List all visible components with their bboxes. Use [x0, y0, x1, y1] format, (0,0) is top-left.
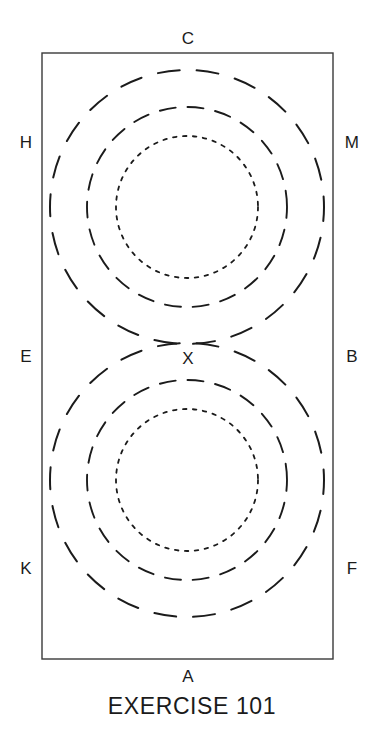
figure-caption: EXERCISE 101: [0, 692, 384, 720]
corner-label-upper-left: H: [20, 134, 32, 151]
corner-label-middle-right: B: [346, 348, 358, 365]
corner-label-top: C: [182, 30, 194, 47]
corner-label-upper-right: M: [345, 134, 359, 151]
diagram-canvas: [0, 0, 384, 737]
corner-label-lower-left: K: [20, 560, 32, 577]
corner-label-lower-right: F: [347, 560, 358, 577]
corner-label-middle-left: E: [20, 348, 32, 365]
tangency-point-label: X: [182, 350, 193, 367]
exercise-figure: C A H M E B K F X EXERCISE 101: [0, 0, 384, 737]
corner-label-bottom: A: [182, 668, 194, 685]
